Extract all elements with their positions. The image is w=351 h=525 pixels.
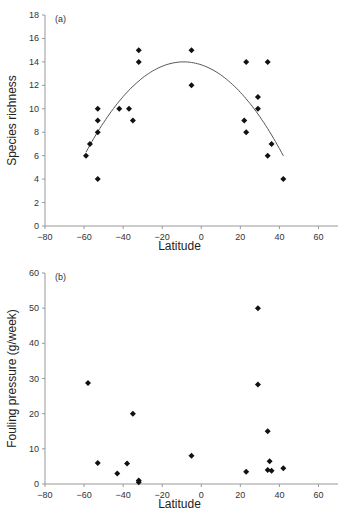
data-point <box>85 380 91 386</box>
data-point <box>265 153 271 159</box>
y-tick-label: 60 <box>29 268 39 278</box>
data-point <box>95 118 101 124</box>
x-tick-label: −60 <box>76 490 91 500</box>
y-tick-label: 6 <box>34 151 39 161</box>
y-tick-label: 10 <box>29 104 39 114</box>
panel-label: (b) <box>55 272 66 282</box>
data-point <box>280 465 286 471</box>
y-tick-label: 50 <box>29 303 39 313</box>
data-point <box>243 129 249 135</box>
data-point <box>83 153 89 159</box>
x-tick-label: 40 <box>274 232 284 242</box>
x-tick-label: 20 <box>235 232 245 242</box>
data-point <box>267 458 273 464</box>
data-point <box>136 59 142 65</box>
x-tick-label: −80 <box>37 490 52 500</box>
data-point <box>124 461 130 467</box>
y-tick-label: 2 <box>34 198 39 208</box>
data-point <box>116 106 122 112</box>
data-point <box>280 176 286 182</box>
data-point <box>189 82 195 88</box>
fit-curve <box>86 62 283 156</box>
data-point <box>243 59 249 65</box>
data-point <box>269 468 275 474</box>
x-tick-label: −40 <box>115 232 130 242</box>
data-point <box>114 470 120 476</box>
data-point <box>255 381 261 387</box>
x-tick-label: −80 <box>37 232 52 242</box>
y-tick-label: 4 <box>34 174 39 184</box>
figure: 024681012141618−80−60−40−200204060Latitu… <box>0 0 351 525</box>
data-point <box>189 47 195 53</box>
x-tick-label: 20 <box>235 490 245 500</box>
data-point <box>95 176 101 182</box>
x-axis-title: Latitude <box>158 239 201 253</box>
y-tick-label: 30 <box>29 374 39 384</box>
data-point <box>95 106 101 112</box>
x-tick-label: 40 <box>274 490 284 500</box>
chart-panel-b: 0102030405060−80−60−40−200204060Latitude… <box>5 268 338 511</box>
data-point <box>126 106 132 112</box>
data-point <box>243 469 249 475</box>
y-tick-label: 18 <box>29 10 39 20</box>
panel-label: (a) <box>55 14 66 24</box>
data-point <box>241 118 247 124</box>
chart-panel-a: 024681012141618−80−60−40−200204060Latitu… <box>5 10 338 253</box>
x-tick-label: 60 <box>313 232 323 242</box>
x-tick-label: −40 <box>115 490 130 500</box>
y-tick-label: 8 <box>34 127 39 137</box>
y-tick-label: 40 <box>29 338 39 348</box>
x-tick-label: −60 <box>76 232 91 242</box>
y-tick-label: 0 <box>34 221 39 231</box>
data-point <box>130 411 136 417</box>
y-tick-label: 10 <box>29 444 39 454</box>
data-point <box>189 453 195 459</box>
data-point <box>255 305 261 311</box>
x-tick-label: 60 <box>313 490 323 500</box>
y-axis-title: Species richness <box>5 75 19 166</box>
y-tick-label: 14 <box>29 57 39 67</box>
data-point <box>95 460 101 466</box>
y-tick-label: 0 <box>34 479 39 489</box>
data-point <box>265 59 271 65</box>
y-tick-label: 20 <box>29 409 39 419</box>
y-axis-title: Fouling pressure (g/week) <box>5 309 19 448</box>
data-point <box>265 428 271 434</box>
data-point <box>130 118 136 124</box>
data-point <box>136 47 142 53</box>
data-point <box>255 94 261 100</box>
y-tick-label: 12 <box>29 80 39 90</box>
data-point <box>269 141 275 147</box>
y-tick-label: 16 <box>29 33 39 43</box>
x-axis-title: Latitude <box>158 497 201 511</box>
